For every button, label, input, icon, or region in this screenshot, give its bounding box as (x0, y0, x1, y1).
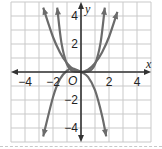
y-axis-arrow-down-icon (78, 135, 84, 142)
dashed-divider (0, 146, 162, 147)
origin-label: O (68, 74, 77, 88)
x-tick-label: 2 (106, 75, 113, 89)
x-tick-label: −4 (18, 75, 32, 89)
x-tick-label: −2 (46, 75, 60, 89)
curve-arrowhead-icon (43, 8, 49, 16)
y-tick-label: 4 (71, 9, 78, 23)
y-tick-label: −2 (64, 93, 78, 107)
x-tick-label: 4 (134, 75, 141, 89)
y-tick-label: 2 (71, 37, 78, 51)
axes (11, 2, 151, 142)
x-axis-label: x (145, 57, 152, 71)
y-tick-label: −4 (64, 121, 78, 135)
y-axis-label: y (84, 2, 91, 16)
y-axis-arrow-up-icon (78, 2, 84, 9)
x-axis-arrow-left-icon (11, 69, 18, 75)
coordinate-plane: −4−224−4−224 x y O (0, 0, 162, 149)
